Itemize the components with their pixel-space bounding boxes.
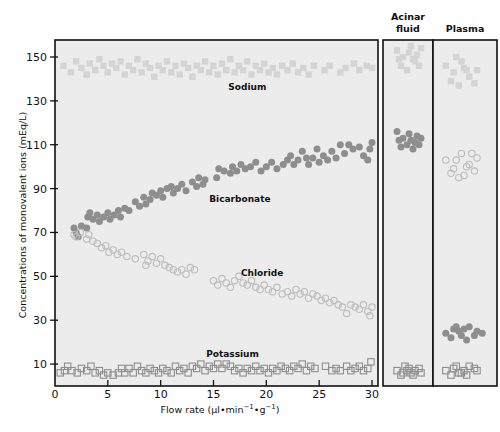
bicarbonate-label: Bicarbonate [209, 194, 270, 204]
sodium-point [87, 60, 93, 66]
sodium-point [416, 63, 422, 69]
bicarbonate-point [104, 209, 111, 216]
sodium-point [113, 65, 119, 71]
x-tick-label: 10 [154, 388, 168, 401]
sodium-point [231, 69, 237, 75]
sodium-point [202, 58, 208, 64]
sodium-point [466, 74, 472, 80]
bicarbonate-point [408, 137, 415, 144]
x-tick-label: 20 [259, 388, 273, 401]
bicarbonate-point [295, 157, 302, 164]
sodium-point [160, 67, 166, 73]
sodium-point [100, 63, 106, 69]
bicarbonate-point [303, 154, 310, 161]
sodium-point [96, 56, 102, 62]
bicarbonate-point [414, 132, 421, 139]
bicarbonate-point [471, 332, 478, 339]
y-tick-label: 70 [33, 226, 47, 239]
sodium-point [474, 67, 480, 73]
bicarbonate-point [178, 181, 185, 188]
x-tick-label: 30 [365, 388, 379, 401]
bicarbonate-point [416, 141, 423, 148]
bicarbonate-point [364, 157, 371, 164]
bicarbonate-point [479, 330, 486, 337]
bicarbonate-point [273, 165, 280, 172]
plasma-title: Plasma [446, 23, 485, 34]
bicarbonate-point [309, 154, 316, 161]
sodium-label: Sodium [228, 82, 266, 92]
sodium-point [284, 67, 290, 73]
sodium-point [248, 71, 254, 77]
bicarbonate-point [316, 159, 323, 166]
bicarbonate-point [369, 139, 376, 146]
bicarbonate-point [83, 225, 90, 232]
sodium-point [117, 58, 123, 64]
bicarbonate-point [366, 146, 373, 153]
sodium-point [198, 67, 204, 73]
sodium-point [396, 56, 402, 62]
bicarbonate-point [461, 325, 468, 332]
potassium-label: Potassium [206, 349, 259, 359]
bicarbonate-point [341, 150, 348, 157]
sodium-point [122, 71, 128, 77]
sodium-point [84, 71, 90, 77]
bicarbonate-point [398, 143, 405, 150]
bicarbonate-point [410, 146, 417, 153]
sodium-point [134, 56, 140, 62]
bicarbonate-point [305, 161, 312, 168]
bicarbonate-point [140, 194, 147, 201]
bicarbonate-point [287, 152, 294, 159]
bicarbonate-point [337, 141, 344, 148]
sodium-point [176, 71, 182, 77]
bicarbonate-point [202, 176, 209, 183]
sodium-point [244, 58, 250, 64]
sodium-point [78, 65, 84, 71]
x-axis-title: Flow rate (µl•min−1•g−1) [161, 403, 280, 415]
sodium-point [105, 69, 111, 75]
bicarbonate-point [324, 157, 331, 164]
y-tick-label: 50 [33, 270, 47, 283]
sodium-point [356, 67, 362, 73]
x-tick-label: 15 [207, 388, 221, 401]
sodium-point [305, 71, 311, 77]
bicarbonate-point [406, 130, 413, 137]
sodium-point [443, 63, 449, 69]
bicarbonate-point [125, 207, 132, 214]
sodium-point [269, 65, 275, 71]
bicarbonate-point [136, 203, 143, 210]
bicarbonate-point [252, 159, 259, 166]
bicarbonate-point [268, 159, 275, 166]
sodium-point [164, 58, 170, 64]
bicarbonate-point [394, 128, 401, 135]
sodium-point [408, 43, 414, 49]
acinar-fluid-panel [383, 40, 433, 386]
sodium-point [215, 71, 221, 77]
sodium-point [168, 69, 174, 75]
bicarbonate-point [349, 146, 356, 153]
bicarbonate-point [299, 148, 306, 155]
y-tick-label: 90 [33, 183, 47, 196]
bicarbonate-point [333, 154, 340, 161]
bicarbonate-point [221, 168, 228, 175]
sodium-point [138, 69, 144, 75]
bicarbonate-point [86, 209, 93, 216]
sodium-point [300, 65, 306, 71]
sodium-point [240, 67, 246, 73]
sodium-point [172, 63, 178, 69]
y-tick-label: 10 [33, 358, 47, 371]
sodium-point [147, 65, 153, 71]
sodium-point [257, 67, 263, 73]
bicarbonate-point [453, 323, 460, 330]
y-tick-label: 130 [26, 95, 47, 108]
sodium-point [394, 47, 400, 53]
x-tick-label: 0 [52, 388, 59, 401]
bicarbonate-point [314, 146, 321, 153]
bicarbonate-point [195, 174, 202, 181]
bicarbonate-point [157, 187, 164, 194]
bicarbonate-point [227, 170, 234, 177]
bicarbonate-point [233, 168, 240, 175]
x-tick-label: 5 [104, 388, 111, 401]
ion-concentration-chart: SodiumBicarbonateChloridePotassium103050… [0, 0, 500, 432]
sodium-point [73, 58, 79, 64]
bicarbonate-point [396, 137, 403, 144]
